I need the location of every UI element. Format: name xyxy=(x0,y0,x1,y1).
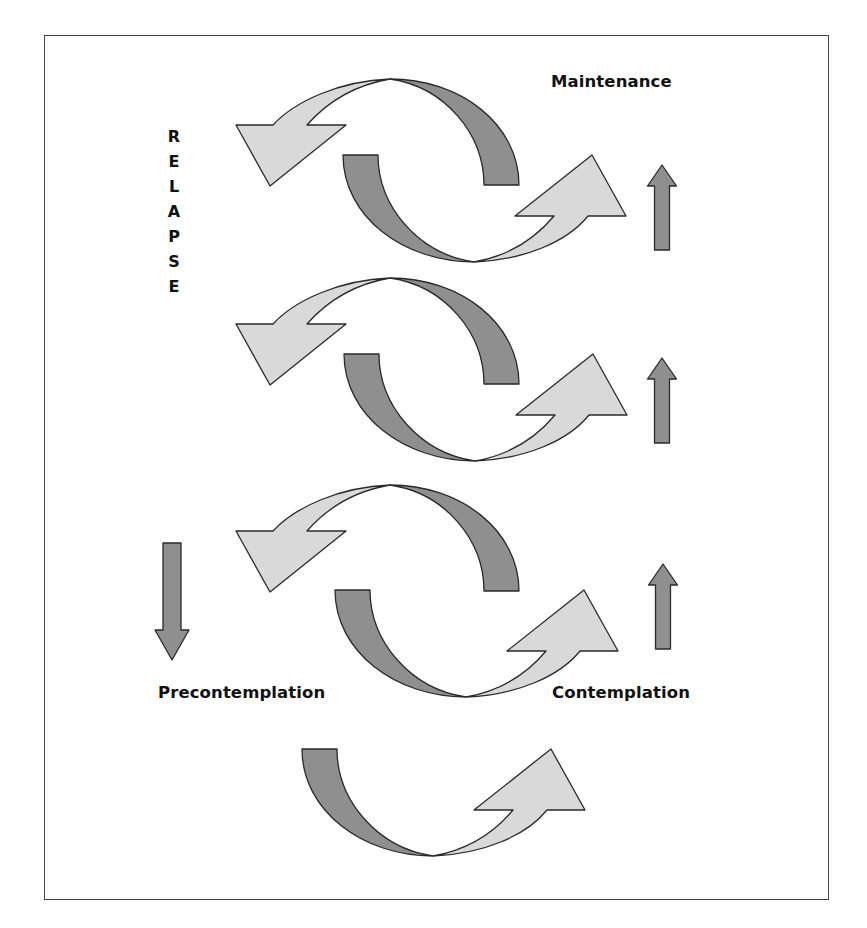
relapse-letter: P xyxy=(160,224,188,249)
cycle-3 xyxy=(236,485,618,697)
cycle-2 xyxy=(236,278,627,461)
cycle-4-progress-arrow xyxy=(302,749,585,856)
relapse-letter: L xyxy=(160,174,188,199)
stage-label-contemplation: Contemplation xyxy=(552,683,690,702)
cycle-3-relapse-arrow xyxy=(236,485,519,592)
up-arrow-icon xyxy=(648,358,677,443)
stage-label-maintenance: Maintenance xyxy=(551,72,672,91)
relapse-vertical-label: R E L A P S E xyxy=(160,124,188,299)
stages-of-change-diagram: .dk { fill:#8f8f8f; stroke:#2a2a2a; stro… xyxy=(0,0,867,928)
relapse-letter: A xyxy=(160,199,188,224)
cycle-3-progress-arrow xyxy=(335,590,618,697)
up-arrow-icon xyxy=(649,564,678,649)
down-arrow-icon xyxy=(155,543,189,660)
relapse-letter: R xyxy=(160,124,188,149)
relapse-letter: E xyxy=(160,149,188,174)
relapse-letter: S xyxy=(160,249,188,274)
up-arrow-icon xyxy=(648,165,677,250)
cycle-4 xyxy=(302,749,585,856)
cycle-1 xyxy=(236,79,626,262)
relapse-letter: E xyxy=(160,274,188,299)
stage-label-precontemplation: Precontemplation xyxy=(158,683,325,702)
